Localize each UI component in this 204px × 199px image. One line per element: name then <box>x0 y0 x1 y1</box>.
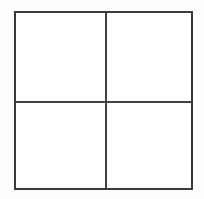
grid-cell-top-right[interactable] <box>104 13 191 100</box>
page-canvas <box>0 0 204 199</box>
grid-cell-top-left[interactable] <box>16 13 104 100</box>
grid-divider-horizontal <box>16 101 191 102</box>
grid-cell-bottom-right[interactable] <box>104 100 191 188</box>
grid-figure[interactable] <box>14 11 193 190</box>
grid-cell-bottom-left[interactable] <box>16 100 104 188</box>
